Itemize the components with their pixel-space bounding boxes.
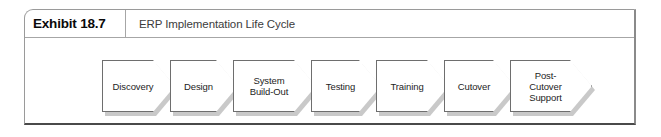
process-step-label: Design	[170, 60, 238, 112]
process-flow-diagram: DiscoveryDesignSystem Build-OutTestingTr…	[25, 38, 634, 124]
process-step-label: Testing	[311, 60, 381, 112]
process-step-label: Post- Cutover Support	[510, 60, 592, 112]
process-step-label: System Build-Out	[233, 60, 316, 112]
process-step-label: Cutover	[444, 60, 515, 112]
process-step[interactable]: System Build-Out	[233, 60, 316, 112]
process-step[interactable]: Cutover	[444, 60, 515, 112]
exhibit-header: Exhibit 18.7 ERP Implementation Life Cyc…	[25, 10, 634, 38]
exhibit-title: ERP Implementation Life Cycle	[126, 18, 295, 30]
exhibit-number-label: Exhibit 18.7	[25, 16, 125, 31]
process-step-label: Training	[376, 60, 449, 112]
process-step[interactable]: Testing	[311, 60, 381, 112]
process-step[interactable]: Discovery	[102, 60, 175, 112]
process-step[interactable]: Training	[376, 60, 449, 112]
process-step-label: Discovery	[102, 60, 175, 112]
process-step[interactable]: Post- Cutover Support	[510, 60, 592, 112]
process-step[interactable]: Design	[170, 60, 238, 112]
exhibit-frame: Exhibit 18.7 ERP Implementation Life Cyc…	[24, 9, 636, 125]
